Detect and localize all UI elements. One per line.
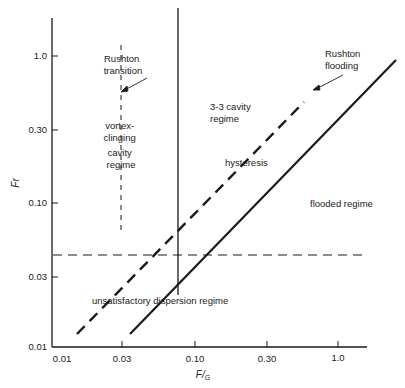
label-3-3-cavity-regime: 3-3 cavity regime: [210, 101, 253, 124]
arrow-rushton-transition: [121, 78, 147, 92]
arrow-rushton-flooding: [313, 75, 343, 90]
x-axis-title: F/G: [196, 369, 210, 381]
y-tick-label: 0.30: [29, 124, 48, 135]
x-tick-label: 1.0: [331, 352, 344, 363]
label-rushton-flooding: Rushton flooding: [325, 48, 363, 71]
y-tick-label: 0.10: [29, 197, 48, 208]
label-rushton-transition: Rushton transition: [104, 53, 143, 76]
y-axis-title: Fr: [10, 178, 21, 188]
label-hysteresis: hysteresis: [225, 157, 268, 168]
label-unsatisfactory-dispersion-regime: unsatisfactory dispersion regime: [92, 295, 228, 306]
x-tick-label: 0.10: [186, 353, 205, 364]
y-ticks: [52, 56, 58, 277]
x-tick-label: 0.30: [258, 353, 277, 364]
x-ticks: [122, 341, 338, 347]
y-tick-label: 0.03: [29, 271, 48, 282]
y-tick-label: 1.0: [34, 50, 47, 61]
x-tick-label: 0.01: [53, 353, 72, 364]
x-tick-label: 0.03: [113, 353, 132, 364]
label-flooded-regime: flooded regime: [310, 198, 373, 209]
diagonal-boundary-solid: [130, 60, 396, 334]
y-tick-label: 0.01: [29, 341, 48, 352]
flow-regime-diagram: 1.0 0.30 0.10 0.03 0.01 0.01 0.03 0.10 0…: [0, 0, 405, 388]
